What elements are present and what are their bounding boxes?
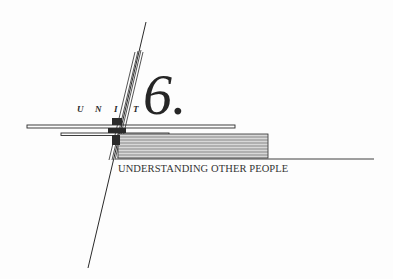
unit-letter-t: T [133,104,139,114]
hatched-block [118,134,268,158]
unit-letter-n: N [95,104,102,114]
chapter-opener-page: U N I T 6. UNDERSTANDING OTHER PEOPLE [0,0,393,279]
decorative-line-art [0,0,393,279]
unit-title: UNDERSTANDING OTHER PEOPLE [118,163,288,174]
unit-letter-u: U [77,104,84,114]
unit-letter-i: I [114,104,118,114]
unit-number: 6. [143,66,187,124]
upper-horizontal-bar [27,125,235,128]
